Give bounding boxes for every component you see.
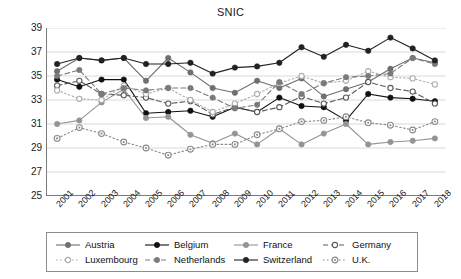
data-point — [321, 94, 326, 99]
data-point — [366, 79, 371, 84]
data-point — [299, 73, 304, 78]
legend-item-austria[interactable]: Austria — [55, 239, 144, 250]
data-point — [232, 90, 237, 95]
legend-marker-icon — [322, 255, 348, 265]
data-point — [277, 60, 282, 65]
data-point — [188, 132, 193, 137]
data-point — [432, 58, 437, 63]
data-point — [343, 87, 348, 92]
data-point — [321, 81, 326, 86]
page-title: SNIC — [0, 6, 461, 18]
data-point — [210, 71, 215, 76]
legend-item-u-k[interactable]: U.K. — [322, 254, 411, 265]
series-netherlands — [54, 55, 437, 111]
y-tick-label: 31 — [20, 119, 42, 129]
legend-label: Netherlands — [174, 254, 225, 265]
data-point — [388, 35, 393, 40]
data-point — [255, 109, 260, 114]
series-line — [57, 89, 435, 144]
data-point — [232, 131, 237, 136]
legend-item-netherlands[interactable]: Netherlands — [144, 254, 233, 265]
data-point — [54, 121, 59, 126]
y-tick-label: 39 — [20, 23, 42, 33]
data-point — [232, 65, 237, 70]
data-point-center — [434, 121, 436, 123]
chart-container: SNIC 2527293133353739 200120022003200420… — [0, 0, 461, 279]
x-axis-tick-labels: 2001200220032004200520062007200820092010… — [46, 198, 446, 230]
data-point — [366, 48, 371, 53]
data-point — [188, 108, 193, 113]
legend-label: Austria — [85, 239, 115, 250]
legend-label: Switzerland — [263, 254, 312, 265]
data-point — [388, 95, 393, 100]
series-line — [57, 71, 435, 112]
series-germany — [55, 78, 438, 117]
data-point — [55, 88, 60, 93]
data-point — [299, 142, 304, 147]
data-point-center — [301, 121, 303, 123]
data-point — [99, 91, 104, 96]
data-point — [366, 91, 371, 96]
y-tick-label: 33 — [20, 95, 42, 105]
data-point — [166, 55, 171, 60]
series-line — [57, 38, 435, 74]
legend-label: Luxembourg — [85, 254, 138, 265]
data-point — [121, 77, 126, 82]
legend-marker-icon — [144, 240, 170, 250]
plot-area — [46, 28, 446, 196]
data-point-center — [123, 141, 125, 143]
data-point — [143, 88, 148, 93]
legend-marker-icon — [144, 255, 170, 265]
data-point — [277, 105, 282, 110]
data-point — [432, 82, 437, 87]
data-point — [410, 96, 415, 101]
data-point — [321, 131, 326, 136]
data-point — [254, 78, 259, 83]
data-point-center — [101, 133, 103, 135]
data-point — [254, 64, 259, 69]
data-point-center — [367, 122, 369, 124]
data-point-center — [78, 127, 80, 129]
legend-marker-icon — [322, 240, 348, 250]
y-tick-label: 29 — [20, 143, 42, 153]
data-point — [410, 138, 415, 143]
data-point — [410, 76, 415, 81]
data-point — [166, 101, 171, 106]
legend-label: U.K. — [352, 254, 370, 265]
data-point — [343, 95, 348, 100]
data-point — [388, 85, 393, 90]
data-point-center — [212, 143, 214, 145]
legend-item-switzerland[interactable]: Switzerland — [233, 254, 322, 265]
data-point — [54, 61, 59, 66]
data-point — [77, 67, 82, 72]
legend-item-france[interactable]: France — [233, 239, 322, 250]
data-point — [410, 46, 415, 51]
data-point — [299, 103, 304, 108]
data-point — [77, 78, 82, 83]
data-point — [254, 102, 259, 107]
data-point — [210, 85, 215, 90]
y-tick-label: 35 — [20, 71, 42, 81]
data-point — [321, 54, 326, 59]
data-point — [410, 55, 415, 60]
legend-grid: AustriaBelgiumFranceGermanyLuxembourgNet… — [55, 237, 411, 267]
y-axis-tick-labels: 2527293133353739 — [18, 28, 42, 196]
data-point — [366, 73, 371, 78]
data-point-center — [412, 129, 414, 131]
legend-item-luxembourg[interactable]: Luxembourg — [55, 254, 144, 265]
data-point — [432, 136, 437, 141]
legend-item-belgium[interactable]: Belgium — [144, 239, 233, 250]
series-line — [57, 58, 435, 108]
legend-marker-icon — [233, 240, 259, 250]
data-point — [121, 85, 126, 90]
data-point — [366, 142, 371, 147]
legend-item-germany[interactable]: Germany — [322, 239, 411, 250]
data-point-center — [323, 119, 325, 121]
data-point-center — [167, 154, 169, 156]
data-point-center — [189, 148, 191, 150]
data-point — [388, 139, 393, 144]
data-point-center — [56, 137, 58, 139]
legend-marker-icon — [55, 255, 81, 265]
data-point — [143, 78, 148, 83]
data-point — [143, 115, 148, 120]
